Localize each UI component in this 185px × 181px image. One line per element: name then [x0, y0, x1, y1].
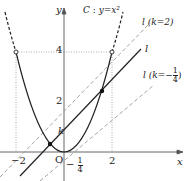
line-l-kq-name: l [143, 70, 146, 80]
tick-y-k: k [58, 126, 64, 136]
intersection-point-left [48, 142, 52, 146]
line-l-k-neg-quarter-label: l (k=−14) [143, 67, 181, 84]
denominator: 4 [78, 166, 83, 174]
curve-label: C : y=x² [83, 6, 120, 15]
fraction-one-quarter: 1 4 [78, 157, 83, 174]
tick-x-neg-quarter: − 1 4 [66, 157, 83, 174]
line-l-label: l [145, 44, 148, 54]
line-l-k2-cond: (k=2) [148, 17, 174, 27]
curve-name: C [83, 5, 90, 15]
tick-y-2: 2 [56, 96, 62, 106]
line-l-k2-name: l [142, 17, 145, 27]
open-point-left [14, 50, 18, 54]
line-l-kq-sign: − [165, 70, 173, 80]
line-l-kq-suffix: ) [178, 70, 182, 80]
numerator: 1 [78, 157, 83, 165]
tick-y-4: 4 [56, 45, 62, 55]
line-l-k2 [0, 23, 150, 177]
open-point-right [110, 50, 114, 54]
neg-sign: − [66, 159, 74, 170]
line-l-k2-label: l (k=2) [142, 18, 174, 27]
x-axis-label: x [177, 157, 183, 167]
parabola-dashed-left [5, 12, 16, 52]
function-graph [0, 0, 185, 181]
intersection-point-right [100, 89, 104, 93]
y-axis-label: y [56, 5, 62, 15]
curve-equation: y=x² [99, 5, 120, 15]
parabola-dashed-right [112, 12, 123, 52]
origin-label: O [55, 155, 63, 165]
line-l-kq-prefix: (k= [149, 70, 166, 80]
tick-x-2: 2 [109, 156, 115, 166]
tick-x-neg2: −2 [11, 156, 26, 166]
